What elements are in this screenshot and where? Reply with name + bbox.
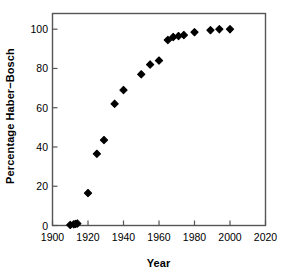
data-point-marker [84, 190, 91, 197]
data-point-marker [138, 71, 145, 78]
data-point-marker [216, 26, 223, 33]
data-point-marker [191, 29, 198, 36]
data-point-marker [120, 86, 127, 93]
data-point-series [67, 26, 234, 229]
data-point-marker [111, 100, 118, 107]
data-point-marker [100, 137, 107, 144]
plot-area [0, 0, 288, 278]
data-point-marker [155, 57, 162, 64]
data-point-marker [207, 27, 214, 34]
chart-figure: Percentage Haber−Bosch Year 020406080100… [0, 0, 288, 278]
data-point-marker [226, 26, 233, 33]
data-point-marker [147, 61, 154, 68]
data-point-marker [93, 150, 100, 157]
